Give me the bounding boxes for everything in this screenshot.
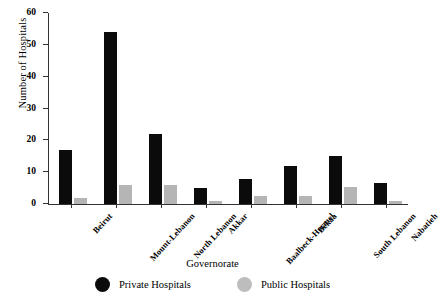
x-axis-label: North Lebanon: [191, 211, 238, 260]
x-axis-title: Governorate: [0, 258, 425, 269]
bar-public: [119, 185, 132, 204]
bar-public: [164, 185, 177, 204]
x-axis-tick: [251, 204, 252, 208]
legend-marker-private-icon: [95, 277, 110, 292]
y-axis-tick: 20: [43, 139, 48, 140]
x-axis-label: Mount-Lebanon: [147, 211, 196, 263]
bar-private: [374, 183, 387, 204]
bar-public: [299, 196, 312, 204]
x-axis-tick: [71, 204, 72, 208]
x-axis-tick: [341, 204, 342, 208]
bar-private: [194, 188, 207, 204]
legend-label-private: Private Hospitals: [119, 279, 191, 290]
x-axis-tick: [296, 204, 297, 208]
y-axis-tick: 50: [43, 44, 48, 45]
y-axis-tick-label: 40: [27, 71, 37, 81]
legend-label-public: Public Hospitals: [261, 279, 330, 290]
legend-item-private: Private Hospitals: [95, 277, 191, 292]
y-axis-tick: 60: [43, 12, 48, 13]
x-axis-label: Beirut: [90, 211, 114, 235]
bar-private: [284, 166, 297, 204]
bar-public: [74, 198, 87, 204]
legend-marker-public-icon: [237, 277, 252, 292]
chart-legend: Private Hospitals Public Hospitals: [0, 277, 425, 292]
bar-private: [239, 179, 252, 204]
x-axis-tick: [116, 204, 117, 208]
y-axis-tick-label: 0: [31, 198, 36, 208]
bar-private: [104, 32, 117, 204]
x-axis-label: Bekaa: [315, 211, 338, 235]
y-axis-tick-label: 20: [27, 134, 37, 144]
y-axis-tick: 40: [43, 76, 48, 77]
x-axis-tick: [386, 204, 387, 208]
y-axis-line: [48, 13, 49, 204]
bar-public: [254, 196, 267, 204]
y-axis-tick-label: 30: [27, 103, 37, 113]
y-axis-tick: 30: [43, 108, 48, 109]
y-axis-tick: 10: [43, 171, 48, 172]
y-axis-tick-label: 10: [27, 166, 37, 176]
bar-public: [389, 201, 402, 204]
bar-public: [209, 201, 222, 204]
plot-area: 0102030405060 BeirutMount-LebanonNorth L…: [48, 13, 408, 204]
legend-item-public: Public Hospitals: [237, 277, 330, 292]
bar-private: [149, 134, 162, 204]
y-axis-tick-label: 50: [27, 39, 37, 49]
y-axis-tick: 0: [43, 203, 48, 204]
x-axis-tick: [206, 204, 207, 208]
bar-public: [344, 187, 357, 205]
y-axis-tick-label: 60: [27, 7, 37, 17]
bar-private: [329, 156, 342, 204]
x-axis-line: [48, 204, 408, 205]
bar-private: [59, 150, 72, 204]
x-axis-tick: [161, 204, 162, 208]
